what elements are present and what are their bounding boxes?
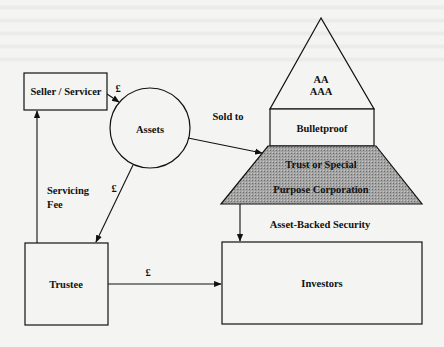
investors-label: Investors: [301, 279, 342, 290]
spv-trapezoid: [221, 146, 422, 204]
rating-aa-label: AA: [313, 75, 328, 86]
spv-label-line2: Purpose Corporation: [273, 185, 368, 196]
seller-servicer-label: Seller / Servicer: [31, 87, 102, 98]
assets-to-trustee-pound-label: £: [111, 184, 116, 195]
arrow-seller-to-assets: [107, 94, 119, 102]
arrow-assets-to-trustee: [96, 165, 133, 242]
trustee-label: Trustee: [49, 280, 83, 291]
seller-to-assets-pound-label: £: [115, 84, 120, 95]
sold-to-label: Sold to: [212, 112, 243, 123]
servicing-fee-label-line1: Servicing: [47, 186, 89, 197]
trustee-to-investors-pound-label: £: [145, 268, 150, 279]
servicing-fee-label-line2: Fee: [47, 200, 63, 211]
rating-aaa-label: AAA: [310, 87, 333, 98]
bulletproof-label: Bulletproof: [296, 124, 347, 135]
assets-label: Assets: [136, 125, 164, 136]
diagram-canvas: [0, 0, 444, 347]
spv-label-line1: Trust or Special: [285, 160, 356, 171]
asset-backed-security-label: Asset-Backed Security: [270, 220, 371, 231]
arrow-assets-to-spv: [188, 138, 262, 153]
